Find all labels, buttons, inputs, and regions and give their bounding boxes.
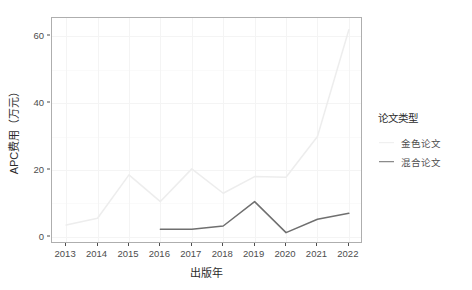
legend: 论文类型 金色论文混合论文 [378, 110, 470, 172]
x-tick-mark [222, 243, 223, 246]
x-tick-label: 2020 [274, 248, 295, 259]
legend-line-swatch-icon [378, 155, 395, 169]
x-tick-label: 2015 [117, 248, 138, 259]
x-axis-title: 出版年 [51, 264, 362, 280]
y-axis-title-text: APC费用（万元） [5, 86, 21, 175]
x-tick-label: 2022 [337, 248, 358, 259]
legend-item-label: 混合论文 [401, 155, 441, 169]
legend-line-swatch-icon [378, 136, 395, 150]
x-tick-mark [254, 243, 255, 246]
chart-container: APC费用（万元） 0204060 2013201420152016201720… [0, 0, 472, 290]
x-tick-mark [316, 243, 317, 246]
legend-item-1[interactable]: 金色论文 [378, 134, 470, 151]
plot-panel [51, 17, 362, 243]
legend-items: 金色论文混合论文 [378, 134, 470, 170]
legend-item-2[interactable]: 混合论文 [378, 153, 470, 170]
x-tick-mark [128, 243, 129, 246]
x-tick-label: 2021 [306, 248, 327, 259]
x-tick-label: 2014 [86, 248, 107, 259]
y-tick-label: 20 [33, 163, 44, 174]
x-tick-label: 2016 [149, 248, 170, 259]
y-tick-mark [47, 102, 50, 103]
series-line-2 [160, 202, 348, 233]
x-tick-mark [97, 243, 98, 246]
legend-item-label: 金色论文 [401, 136, 441, 150]
x-tick-label: 2017 [180, 248, 201, 259]
x-tick-mark [285, 243, 286, 246]
x-tick-label: 2013 [55, 248, 76, 259]
series-lines [52, 18, 362, 243]
x-tick-mark [65, 243, 66, 246]
y-axis-title: APC费用（万元） [2, 0, 24, 260]
y-tick-mark [47, 35, 50, 36]
y-tick-label: 0 [39, 230, 44, 241]
y-tick-label: 40 [33, 97, 44, 108]
x-tick-mark [191, 243, 192, 246]
y-tick-mark [47, 235, 50, 236]
x-tick-label: 2018 [212, 248, 233, 259]
x-tick-mark [159, 243, 160, 246]
legend-title: 论文类型 [378, 110, 470, 125]
x-tick-mark [348, 243, 349, 246]
y-tick-mark [47, 168, 50, 169]
series-line-1 [66, 30, 349, 225]
y-axis-tick-labels: 0204060 [22, 0, 46, 290]
x-tick-label: 2019 [243, 248, 264, 259]
y-tick-label: 60 [33, 30, 44, 41]
